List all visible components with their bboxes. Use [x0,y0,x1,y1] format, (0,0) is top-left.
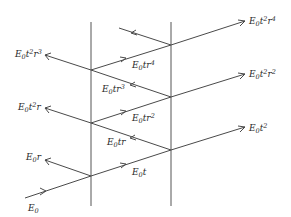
label-out-left-3: E0t2r3 [14,48,42,61]
reflected-ray-1 [45,160,91,176]
internal-ray-tr2 [91,97,171,123]
internal-ray-tr4 [91,45,171,70]
transmitted-ray-3 [171,21,245,45]
internal-ray-tr [91,123,171,150]
reflection-diagram: E0 E0r E0t E0tr E0t2 E0t2r E0tr2 E0tr3 E… [0,0,291,217]
internal-ray-tr5 [119,28,171,45]
label-internal-fwd-3: E0tr4 [131,59,155,72]
label-incident: E0 [27,203,39,215]
label-reflected-1: E0r [25,152,42,164]
internal-ray-t [91,150,171,176]
label-internal-back-2: E0tr3 [101,83,125,96]
transmitted-ray-1 [171,127,245,150]
reflected-ray-2 [45,108,91,123]
reflected-ray-3 [45,55,91,70]
label-transmitted-1: E0t [131,167,147,179]
label-internal-fwd-2: E0tr2 [131,112,155,125]
transmitted-ray-2 [171,74,245,97]
label-internal-back-1: E0tr [106,137,126,149]
label-out-right-3: E0t2r4 [248,15,276,28]
label-out-right-1: E0t2 [248,122,267,135]
incident-ray [25,176,91,198]
label-out-right-2: E0t2r2 [248,68,276,81]
label-out-left-2: E0t2r [17,101,41,114]
